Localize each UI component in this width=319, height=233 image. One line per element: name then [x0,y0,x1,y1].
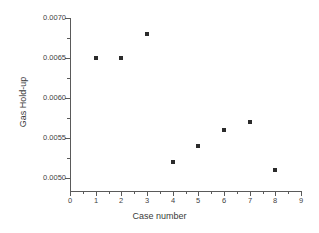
data-point-marker [196,144,200,148]
data-point-marker [119,56,123,60]
data-point-marker [222,128,226,132]
data-point-marker [94,56,98,60]
plot-area [0,0,319,233]
y-axis-title: Gas Hold-up [18,42,28,162]
data-point-marker [145,32,149,36]
data-point-marker [273,168,277,172]
chart-figure: 0.00500.00550.00600.00650.0070 012345678… [0,0,319,233]
data-point-marker [248,120,252,124]
data-point-marker [171,160,175,164]
x-axis-title: Case number [0,211,319,221]
